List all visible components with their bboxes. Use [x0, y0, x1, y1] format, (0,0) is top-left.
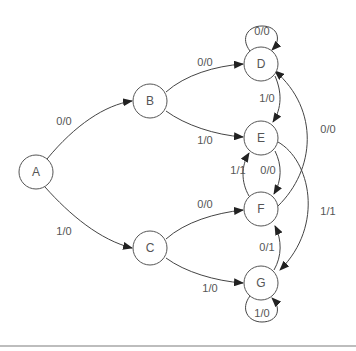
node-label-g: G	[256, 276, 265, 290]
edge-label-d-d: 0/0	[254, 25, 269, 37]
edge-label-c-g: 1/0	[202, 282, 217, 294]
edge-e-g	[278, 142, 308, 270]
node-label-c: C	[146, 241, 155, 255]
edge-label-b-d: 0/0	[197, 56, 212, 68]
edge-label-c-f: 0/0	[197, 198, 212, 210]
edge-b-d	[166, 64, 243, 92]
node-b: B	[133, 84, 167, 118]
node-f: F	[244, 192, 278, 226]
node-g: G	[244, 266, 278, 300]
edge-label-f-d: 0/0	[320, 123, 335, 135]
edge-label-a-b: 0/0	[56, 115, 71, 127]
bottom-divider	[0, 345, 356, 347]
node-e: E	[244, 121, 278, 155]
node-a: A	[19, 155, 53, 189]
state-diagram: 0/0 1/0 0/0 1/0 0/0 1/0 0/0 1/0 0/0 1/1 …	[0, 0, 356, 351]
edge-label-g-f: 0/1	[259, 241, 274, 253]
node-label-a: A	[32, 165, 40, 179]
edge-label-d-e: 1/0	[259, 92, 274, 104]
edge-label-e-f: 0/0	[260, 164, 275, 176]
node-label-d: D	[257, 57, 266, 71]
node-label-e: E	[257, 131, 265, 145]
edge-a-c	[45, 187, 132, 248]
edge-g-f	[274, 226, 280, 270]
edge-a-b	[47, 101, 132, 159]
edge-label-b-e: 1/0	[197, 134, 212, 146]
node-label-b: B	[146, 94, 154, 108]
node-label-f: F	[257, 202, 264, 216]
edge-label-f-e: 1/1	[230, 164, 245, 176]
node-c: C	[133, 231, 167, 265]
edge-label-a-c: 1/0	[56, 225, 71, 237]
edge-label-e-g: 1/1	[320, 205, 335, 217]
edge-c-f	[166, 210, 243, 239]
node-d: D	[244, 47, 278, 81]
edge-c-g	[166, 258, 243, 283]
edge-label-g-g: 1/0	[254, 307, 269, 319]
